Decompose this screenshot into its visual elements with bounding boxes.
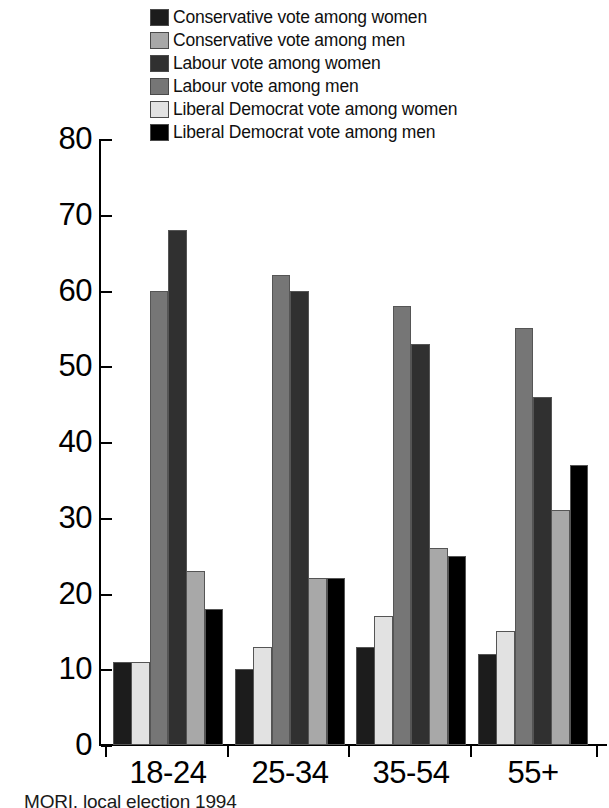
bar xyxy=(393,306,412,745)
bar xyxy=(374,616,393,745)
bar-chart-plot: 01020304050607080 18-2425-3435-5455+ xyxy=(0,0,609,808)
bar xyxy=(308,578,327,745)
x-axis-tick-label: 55+ xyxy=(463,756,603,790)
bar xyxy=(168,230,187,745)
bar xyxy=(290,291,309,746)
x-axis-tick-label: 25-34 xyxy=(220,756,360,790)
bar xyxy=(186,571,205,745)
bar xyxy=(551,510,570,745)
bar xyxy=(272,275,291,745)
bar xyxy=(515,328,534,745)
bar xyxy=(113,662,132,745)
x-axis-tick-label: 18-24 xyxy=(98,756,238,790)
bar xyxy=(533,397,552,745)
bar xyxy=(150,291,169,746)
bar-series-container xyxy=(0,0,609,745)
bar xyxy=(131,662,150,745)
bar xyxy=(205,609,224,745)
x-axis-tick-label: 35-54 xyxy=(341,756,481,790)
bar xyxy=(235,669,254,745)
bar xyxy=(448,556,467,745)
bar xyxy=(411,344,430,745)
chart-source-caption: MORI, local election 1994 xyxy=(24,791,237,808)
bar xyxy=(429,548,448,745)
bar xyxy=(496,631,515,745)
bar xyxy=(253,647,272,745)
bar xyxy=(327,578,346,745)
bar xyxy=(356,647,375,745)
bar xyxy=(570,465,589,745)
bar xyxy=(478,654,497,745)
